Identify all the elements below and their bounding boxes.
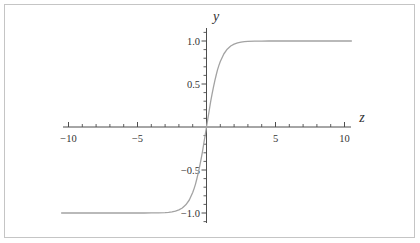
y-tick-label: 1.0 <box>187 36 200 47</box>
y-axis-label: y <box>211 9 220 24</box>
x-tick-label: −10 <box>60 133 76 144</box>
y-tick-label: −1.0 <box>181 208 200 219</box>
y-tick-label: −0.5 <box>181 165 200 176</box>
x-tick-label: 5 <box>273 133 278 144</box>
x-tick-label: −5 <box>132 133 143 144</box>
plot-svg: −10−5510 1.00.5−0.5−1.0 y z <box>0 0 420 243</box>
x-axis-label: z <box>358 110 365 125</box>
figure-border <box>5 5 415 238</box>
y-tick-label: 0.5 <box>187 79 200 90</box>
x-tick-label: 10 <box>339 133 350 144</box>
